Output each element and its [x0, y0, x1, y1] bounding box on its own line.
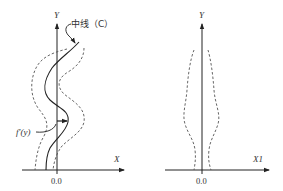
right-left-dashed-curve: [184, 50, 196, 170]
centerline-curve: [45, 42, 79, 170]
left-panel: Y X 0.0 中线（C） f′(y): [16, 10, 124, 186]
right-right-dashed-curve: [208, 50, 219, 170]
left-y-axis-label: Y: [54, 10, 60, 20]
left-x-axis-label: X: [113, 154, 120, 164]
left-boundary-dashed-curve: [32, 49, 67, 170]
right-panel: Y X1 0.0: [165, 10, 269, 186]
right-x-axis-label: X1: [252, 154, 263, 164]
right-origin-label: 0.0: [196, 176, 207, 186]
right-y-axis-label: Y: [199, 10, 205, 20]
right-boundary-dashed-curve: [53, 48, 84, 170]
left-origin-label: 0.0: [51, 176, 62, 186]
function-label: f′(y): [16, 127, 30, 137]
diagram-canvas: Y X 0.0 中线（C） f′(y) Y X1 0.0: [0, 0, 283, 191]
centerline-label: 中线（C）: [71, 18, 113, 29]
